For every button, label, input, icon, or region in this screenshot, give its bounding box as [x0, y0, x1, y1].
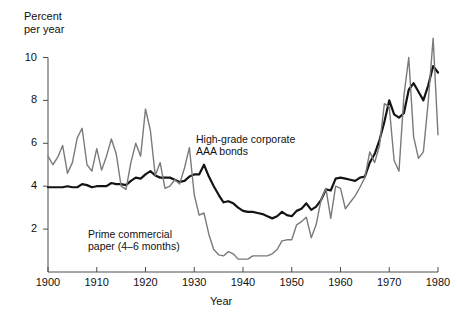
y-tick-label: 4: [15, 179, 37, 191]
x-tick-label: 1950: [272, 276, 312, 288]
x-tick-label: 1900: [28, 276, 68, 288]
y-tick-label: 2: [15, 222, 37, 234]
chart-figure: Percent per year Year High-grade corpora…: [0, 0, 457, 314]
x-tick-label: 1980: [418, 276, 457, 288]
x-tick-label: 1970: [369, 276, 409, 288]
x-tick-label: 1920: [126, 276, 166, 288]
x-tick-label: 1940: [223, 276, 263, 288]
series-line-1: [48, 38, 438, 259]
axis-spines: [48, 58, 438, 273]
x-tick-label: 1910: [77, 276, 117, 288]
x-tick-label: 1960: [321, 276, 361, 288]
plot-area: [0, 0, 457, 314]
y-tick-label: 10: [15, 51, 37, 63]
y-tick-label: 6: [15, 136, 37, 148]
y-tick-label: 8: [15, 93, 37, 105]
x-tick-label: 1930: [174, 276, 214, 288]
